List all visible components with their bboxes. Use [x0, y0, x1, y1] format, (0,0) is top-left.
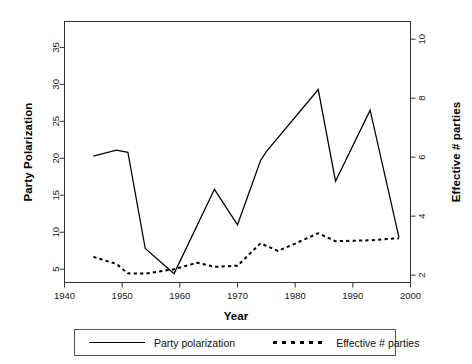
legend-label-effective-parties: Effective # parties [336, 337, 419, 349]
chart-figure: Party Polarization Effective # parties Y… [0, 0, 472, 364]
svg-text:8: 8 [416, 96, 427, 101]
svg-text:15: 15 [50, 190, 61, 201]
legend-entry-party-polarization: Party polarization [89, 330, 235, 355]
svg-text:1980: 1980 [285, 290, 306, 301]
svg-text:1960: 1960 [169, 290, 190, 301]
svg-text:1970: 1970 [227, 290, 248, 301]
svg-text:1950: 1950 [112, 290, 133, 301]
plot-frame [65, 22, 411, 283]
svg-text:20: 20 [50, 153, 61, 164]
svg-text:4: 4 [416, 213, 427, 218]
svg-text:30: 30 [50, 79, 61, 90]
legend-label-party-polarization: Party polarization [154, 337, 235, 349]
y-axis-right-ticks: 246810 [411, 34, 427, 278]
svg-text:1990: 1990 [342, 290, 363, 301]
svg-text:10: 10 [416, 34, 427, 45]
series-line-party-polarization [93, 90, 399, 274]
svg-text:35: 35 [50, 42, 61, 53]
legend-entry-effective-parties: Effective # parties [271, 330, 419, 355]
svg-text:25: 25 [50, 116, 61, 127]
plot-area: 1940195019601970198019902000 51015202530… [0, 0, 472, 364]
svg-text:2000: 2000 [400, 290, 421, 301]
series-line-effective-parties [93, 233, 399, 273]
svg-text:1940: 1940 [54, 290, 75, 301]
svg-text:6: 6 [416, 155, 427, 160]
chart-legend: Party polarization Effective # parties [74, 329, 396, 356]
solid-line-key-icon [89, 337, 145, 348]
dotted-line-key-icon [271, 337, 327, 348]
svg-text:5: 5 [50, 267, 61, 272]
svg-text:10: 10 [50, 227, 61, 238]
svg-text:2: 2 [416, 272, 427, 277]
x-axis-ticks: 1940195019601970198019902000 [54, 283, 421, 301]
y-axis-left-ticks: 5101520253035 [50, 42, 65, 272]
